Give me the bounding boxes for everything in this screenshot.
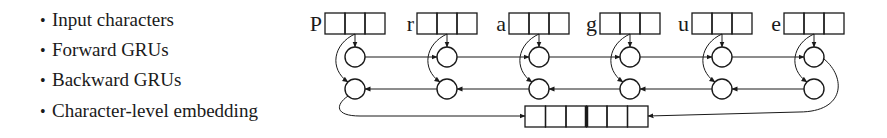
char-label-e: e bbox=[771, 11, 781, 36]
char-vector-cell bbox=[732, 13, 752, 34]
char-vector-cell bbox=[804, 13, 824, 34]
char-vector-cell bbox=[824, 13, 844, 34]
char-vector-cell bbox=[509, 13, 529, 34]
embedding-cell bbox=[525, 106, 546, 127]
embedding-cell bbox=[628, 106, 649, 127]
char-vector-cell bbox=[417, 13, 437, 34]
char-vector-cell bbox=[620, 13, 640, 34]
char-label-g: g bbox=[586, 11, 597, 36]
bi-gru-diagram: Prague bbox=[0, 0, 887, 138]
char-vector-cell bbox=[692, 13, 712, 34]
char-vector-cell bbox=[345, 13, 365, 34]
forward-gru-node bbox=[804, 47, 824, 67]
char-vector-cell bbox=[784, 13, 804, 34]
char-label-a: a bbox=[496, 11, 506, 36]
embedding-cell bbox=[566, 106, 587, 127]
char-label-P: P bbox=[310, 11, 322, 36]
char-vector-cell bbox=[529, 13, 549, 34]
embedding-cell bbox=[587, 106, 608, 127]
connections bbox=[336, 34, 838, 116]
input-characters: Prague bbox=[310, 11, 844, 36]
forward-gru-node bbox=[529, 47, 549, 67]
char-vector-cell bbox=[325, 13, 345, 34]
forward-gru-node bbox=[345, 47, 365, 67]
backward-to-embedding-arrow bbox=[339, 96, 525, 116]
embedding-cell bbox=[607, 106, 628, 127]
character-embedding bbox=[525, 106, 648, 127]
char-label-r: r bbox=[407, 11, 415, 36]
embedding-cell bbox=[546, 106, 567, 127]
char-label-u: u bbox=[678, 11, 689, 36]
char-vector-cell bbox=[437, 13, 457, 34]
char-vector-cell bbox=[457, 13, 477, 34]
char-vector-cell bbox=[365, 13, 385, 34]
char-vector-cell bbox=[712, 13, 732, 34]
forward-gru-node bbox=[437, 47, 457, 67]
char-vector-cell bbox=[640, 13, 660, 34]
forward-gru-node bbox=[712, 47, 732, 67]
forward-gru-node bbox=[620, 47, 640, 67]
char-vector-cell bbox=[549, 13, 569, 34]
char-vector-cell bbox=[600, 13, 620, 34]
